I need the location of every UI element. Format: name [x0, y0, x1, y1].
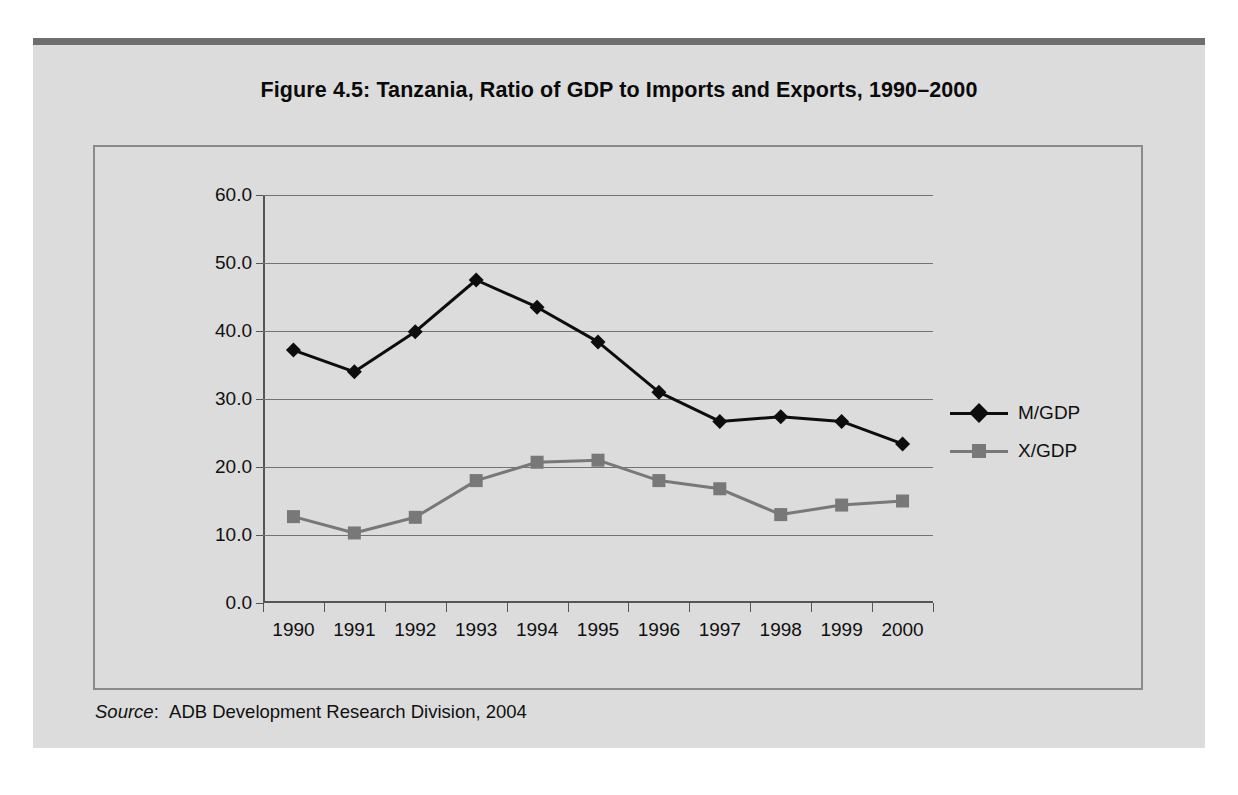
data-point-marker — [774, 508, 787, 521]
data-point-marker — [348, 526, 361, 539]
source-separator: : — [154, 701, 159, 722]
y-axis-tick-mark — [256, 399, 263, 400]
y-axis-tick-mark — [256, 263, 263, 264]
data-point-marker — [713, 482, 726, 495]
legend-swatch — [950, 403, 1008, 423]
data-point-marker — [895, 436, 910, 451]
data-point-marker — [287, 510, 300, 523]
y-axis-tick-mark — [256, 603, 263, 604]
data-point-marker — [286, 343, 301, 358]
y-axis-tick-mark — [256, 467, 263, 468]
x-axis-tick-mark — [933, 603, 934, 612]
x-axis-tick-mark — [811, 603, 812, 612]
x-axis-tick-mark — [750, 603, 751, 612]
data-point-marker — [835, 499, 848, 512]
series-line-m-gdp — [293, 280, 902, 444]
y-axis-tick-label: 60.0 — [162, 184, 252, 206]
y-axis-tick-label: 20.0 — [162, 456, 252, 478]
x-axis-tick-mark — [324, 603, 325, 612]
y-axis-tick-label: 30.0 — [162, 388, 252, 410]
y-axis-tick-label: 10.0 — [162, 524, 252, 546]
legend-item-m-gdp[interactable]: M/GDP — [950, 394, 1130, 432]
data-point-marker — [652, 474, 665, 487]
source-text: ADB Development Research Division, 2004 — [169, 701, 527, 722]
x-axis-tick-mark — [385, 603, 386, 612]
data-point-marker — [712, 414, 727, 429]
data-point-marker — [470, 474, 483, 487]
data-point-marker — [531, 456, 544, 469]
x-axis-tick-mark — [263, 603, 264, 612]
data-point-marker — [896, 495, 909, 508]
x-axis-tick-mark — [507, 603, 508, 612]
source-note: Source: ADB Development Research Divisio… — [95, 701, 527, 723]
source-label: Source — [95, 701, 154, 722]
figure-title: Figure 4.5: Tanzania, Ratio of GDP to Im… — [33, 78, 1205, 103]
series-plot — [263, 195, 933, 603]
y-axis-tick-label: 50.0 — [162, 252, 252, 274]
x-axis-tick-mark — [628, 603, 629, 612]
figure-panel: Figure 4.5: Tanzania, Ratio of GDP to Im… — [33, 38, 1205, 748]
y-axis-tick-mark — [256, 331, 263, 332]
legend-marker-diamond-icon — [969, 403, 989, 423]
x-axis-tick-mark — [689, 603, 690, 612]
data-point-marker — [773, 409, 788, 424]
chart-container: 0.010.020.030.040.050.060.0 199019911992… — [93, 145, 1143, 690]
x-axis-tick-label: 2000 — [858, 619, 948, 641]
data-point-marker — [530, 300, 545, 315]
chart-legend: M/GDPX/GDP — [950, 394, 1130, 470]
x-axis-tick-mark — [568, 603, 569, 612]
plot-area: 0.010.020.030.040.050.060.0 199019911992… — [263, 195, 933, 603]
data-point-marker — [409, 511, 422, 524]
x-axis-tick-mark — [446, 603, 447, 612]
legend-item-x-gdp[interactable]: X/GDP — [950, 432, 1130, 470]
x-axis-tick-mark — [872, 603, 873, 612]
y-axis-tick-label: 0.0 — [162, 592, 252, 614]
data-point-marker — [592, 454, 605, 467]
y-axis-tick-mark — [256, 535, 263, 536]
series-line-x-gdp — [293, 460, 902, 533]
legend-label: X/GDP — [1018, 440, 1077, 462]
y-axis-tick-mark — [256, 195, 263, 196]
data-point-marker — [834, 414, 849, 429]
panel-top-rule — [33, 38, 1205, 45]
y-axis-tick-label: 40.0 — [162, 320, 252, 342]
legend-label: M/GDP — [1018, 402, 1080, 424]
legend-marker-square-icon — [972, 444, 986, 458]
legend-swatch — [950, 441, 1008, 461]
